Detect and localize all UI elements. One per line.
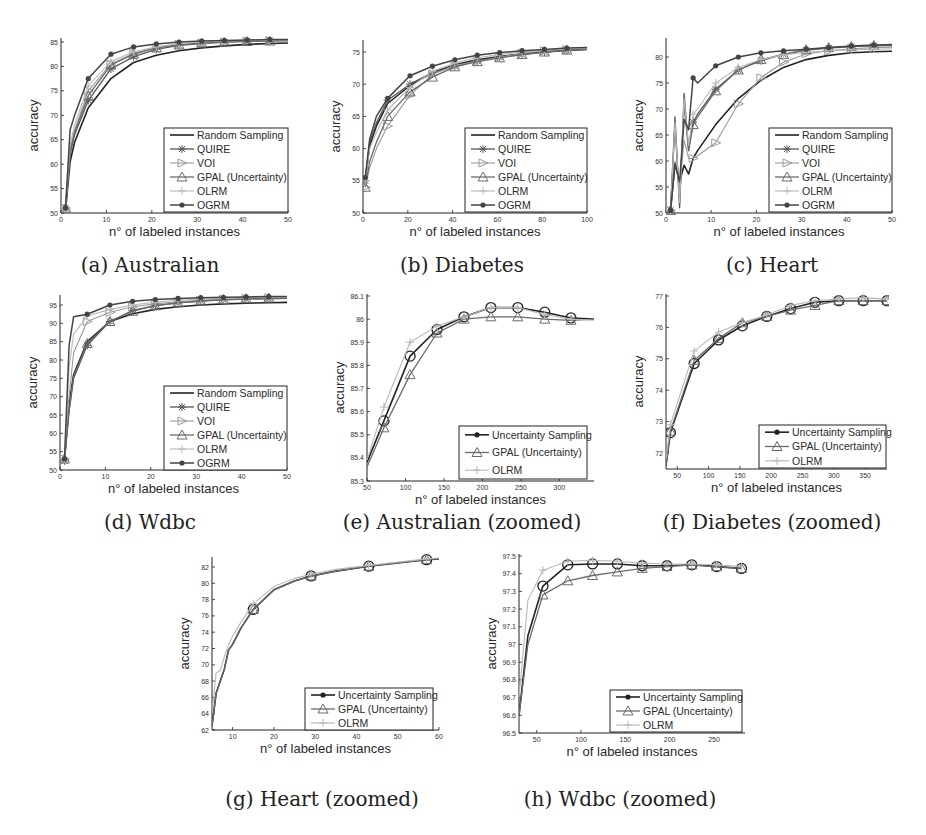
y-tick-label: 75 (49, 375, 57, 382)
legend-entry: OLRM (338, 717, 368, 729)
x-tick-label: 40 (353, 733, 361, 740)
y-tick-label: 86.1 (350, 293, 364, 300)
x-tick-label: 200 (765, 472, 777, 479)
y-tick-label: 77 (655, 293, 663, 300)
x-tick-label: 0 (58, 473, 62, 480)
legend-entry: OLRM (197, 443, 227, 455)
y-tick-label: 80 (201, 580, 209, 587)
legend-entry: QUIRE (498, 143, 531, 155)
legend-entry: QUIRE (197, 401, 230, 413)
chart-e: 85.385.485.585.685.785.885.98686.1501001… (332, 293, 594, 508)
legend: Uncertainty SamplingGPAL (Uncertainty)OL… (759, 425, 892, 468)
y-tick-label: 85.8 (350, 362, 364, 369)
y-tick-label: 97.3 (502, 588, 516, 595)
y-tick-label: 55 (352, 177, 360, 184)
y-tick-label: 75 (352, 49, 360, 56)
legend-entry: OGRM (197, 457, 230, 469)
x-axis-label: n° of labeled instances (714, 224, 845, 239)
caption-d: (d) Wdbc (104, 510, 196, 534)
x-axis-label: n° of labeled instances (711, 480, 842, 495)
x-tick-label: 50 (533, 736, 541, 743)
y-tick-label: 65 (352, 113, 360, 120)
legend-entry: VOI (197, 157, 215, 169)
x-tick-label: 40 (449, 216, 457, 223)
legend: Random SamplingQUIREVOIGPAL (Uncertainty… (164, 128, 288, 212)
y-tick-label: 76 (655, 324, 663, 331)
legend: Random SamplingQUIREVOIGPAL (Uncertainty… (769, 128, 892, 212)
y-tick-label: 55 (655, 184, 663, 191)
x-tick-label: 10 (707, 216, 715, 223)
y-tick-label: 80 (49, 357, 57, 364)
y-tick-label: 85.9 (350, 339, 364, 346)
y-tick-label: 50 (49, 467, 57, 474)
y-tick-label: 96.9 (502, 659, 516, 666)
x-axis-label: n° of labeled instances (410, 224, 541, 239)
y-tick-label: 97.2 (502, 606, 516, 613)
y-tick-label: 65 (49, 412, 57, 419)
x-tick-label: 20 (753, 216, 761, 223)
legend-entry: GPAL (Uncertainty) (338, 703, 428, 715)
x-axis-label: n° of labeled instances (567, 744, 698, 759)
y-tick-label: 70 (49, 393, 57, 400)
legend: Random SamplingQUIREVOIGPAL (Uncertainty… (164, 386, 287, 470)
legend-entry: OLRM (498, 185, 528, 197)
caption-e: (e) Australian (zoomed) (343, 510, 582, 534)
legend-entry: GPAL (Uncertainty) (197, 171, 287, 183)
y-axis-label: accuracy (25, 356, 40, 409)
x-tick-label: 50 (284, 216, 292, 223)
legend-entry: GPAL (Uncertainty) (643, 705, 733, 717)
y-tick-label: 97.1 (502, 623, 516, 630)
y-axis-label: accuracy (332, 361, 347, 414)
y-tick-label: 96.8 (502, 676, 516, 683)
x-tick-label: 10 (229, 733, 237, 740)
x-tick-label: 50 (283, 473, 291, 480)
y-axis-label: accuracy (631, 355, 646, 408)
x-axis-label: n° of labeled instances (260, 741, 391, 756)
y-tick-label: 74 (655, 387, 663, 394)
x-tick-label: 20 (148, 216, 156, 223)
x-tick-label: 250 (797, 472, 809, 479)
x-tick-label: 60 (435, 733, 443, 740)
legend-entry: Uncertainty Sampling (792, 426, 892, 438)
x-tick-label: 150 (438, 484, 450, 491)
x-tick-label: 100 (575, 736, 587, 743)
y-tick-label: 70 (50, 112, 58, 119)
legend-entry: GPAL (Uncertainty) (802, 171, 892, 183)
x-axis-label: n° of labeled instances (109, 224, 240, 239)
x-tick-label: 40 (843, 216, 851, 223)
legend-entry: OLRM (492, 464, 522, 476)
y-axis-label: accuracy (328, 100, 343, 153)
x-tick-label: 50 (888, 216, 896, 223)
y-tick-label: 96.7 (502, 694, 516, 701)
x-tick-label: 50 (363, 484, 371, 491)
y-axis-label: accuracy (177, 617, 192, 670)
y-tick-label: 70 (201, 661, 209, 668)
legend-entry: GPAL (Uncertainty) (792, 440, 882, 452)
legend-entry: GPAL (Uncertainty) (498, 171, 588, 183)
y-tick-label: 85.5 (350, 431, 364, 438)
x-tick-label: 200 (477, 484, 489, 491)
series-line (519, 560, 742, 697)
x-tick-label: 20 (270, 733, 278, 740)
x-tick-label: 150 (620, 736, 632, 743)
legend-entry: Random Sampling (197, 129, 284, 141)
x-tick-label: 20 (404, 216, 412, 223)
y-axis-label: accuracy (631, 99, 646, 152)
x-tick-label: 150 (734, 472, 746, 479)
x-tick-label: 10 (102, 473, 110, 480)
y-tick-label: 72 (655, 450, 663, 457)
legend-entry: Random Sampling (197, 387, 284, 399)
y-tick-label: 80 (50, 63, 58, 70)
x-tick-label: 20 (147, 473, 155, 480)
y-tick-label: 64 (201, 710, 209, 717)
legend-entry: Random Sampling (802, 129, 889, 141)
x-tick-label: 40 (238, 473, 246, 480)
y-tick-label: 50 (655, 210, 663, 217)
y-tick-label: 96.6 (502, 712, 516, 719)
y-tick-label: 62 (201, 727, 209, 734)
chart-d: 5055606570758085909501020304050n° of lab… (25, 293, 291, 496)
x-tick-label: 0 (59, 216, 63, 223)
x-tick-label: 350 (859, 472, 871, 479)
y-tick-label: 85 (50, 39, 58, 46)
y-tick-label: 65 (655, 132, 663, 139)
